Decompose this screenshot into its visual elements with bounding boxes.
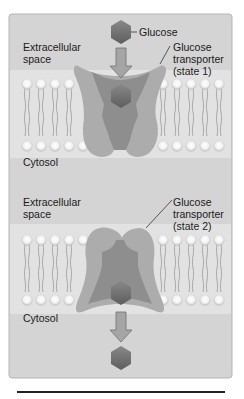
glucose-label: Glucose: [139, 26, 178, 38]
cytosol-label-top: Cytosol: [23, 156, 58, 168]
glucose-transporter-state-1: [74, 66, 166, 157]
transporter-label-state-1: Glucose transporter (state 1): [173, 41, 224, 77]
extracellular-label-top: Extracellular space: [23, 41, 81, 65]
glucose-transport-figure: Glucose Extracellular space Glucose tran…: [0, 0, 244, 399]
extracellular-label-bottom: Extracellular space: [23, 196, 81, 220]
horizontal-rule: [17, 391, 225, 393]
cytosol-label-bottom: Cytosol: [23, 312, 58, 324]
transporter-label-state-2: Glucose transporter (state 2): [173, 196, 224, 232]
